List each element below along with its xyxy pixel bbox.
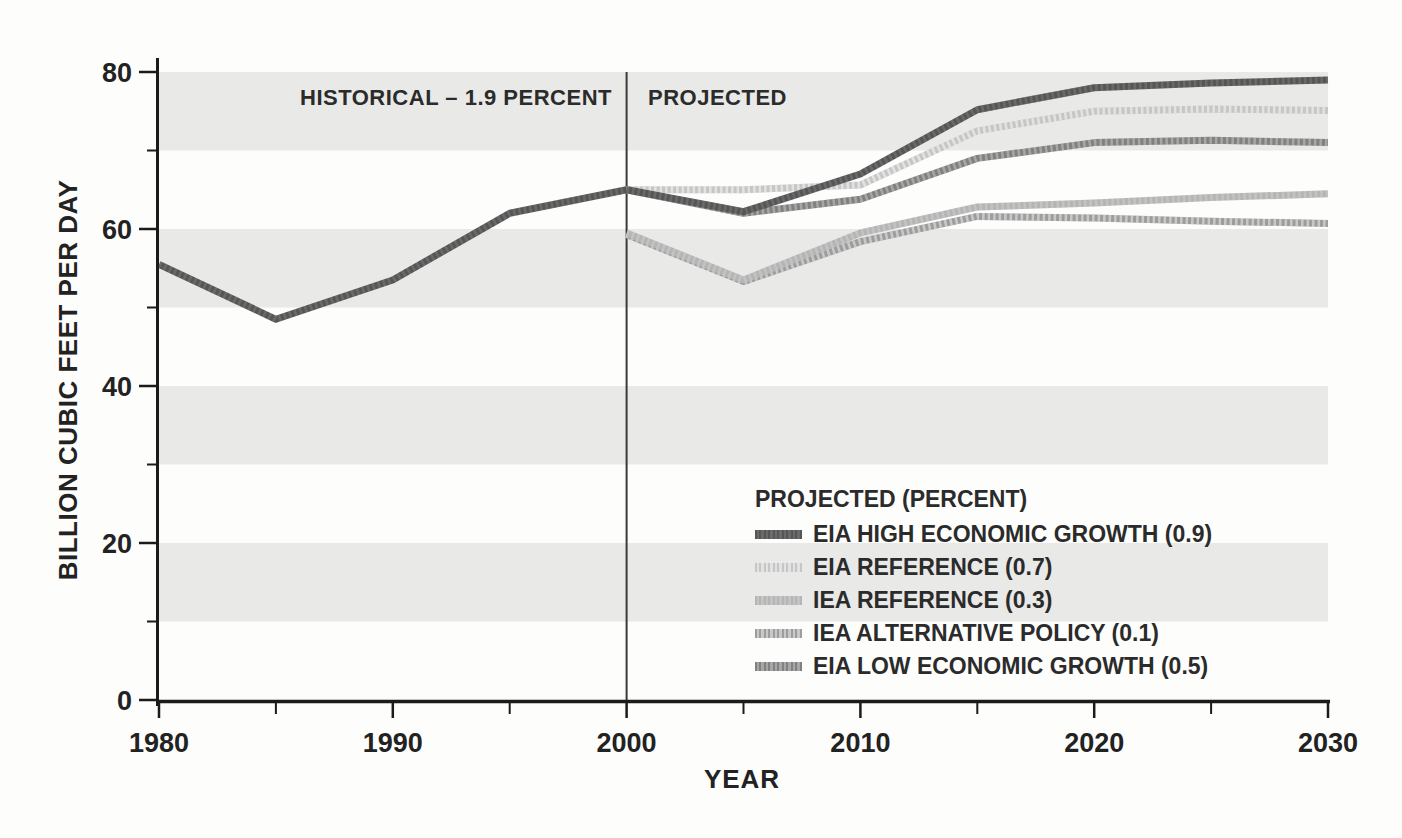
x-tick-label: 2010 bbox=[830, 728, 890, 758]
legend-label: EIA HIGH ECONOMIC GROWTH (0.9) bbox=[813, 521, 1212, 548]
y-tick-label: 60 bbox=[102, 215, 132, 245]
legend: PROJECTED (PERCENT) EIA HIGH ECONOMIC GR… bbox=[755, 486, 1212, 683]
line-swatch-icon bbox=[755, 563, 802, 572]
legend-item: EIA LOW ECONOMIC GROWTH (0.5) bbox=[755, 650, 1212, 683]
line-swatch-icon bbox=[755, 662, 802, 671]
grid-band bbox=[159, 386, 1328, 465]
x-tick-label: 1990 bbox=[363, 728, 423, 758]
y-tick-label: 20 bbox=[102, 529, 132, 559]
legend-label: EIA REFERENCE (0.7) bbox=[813, 554, 1052, 581]
x-tick-label: 2020 bbox=[1064, 728, 1124, 758]
eia_low-line-texture bbox=[627, 140, 1328, 213]
projected-annotation: PROJECTED bbox=[648, 85, 787, 111]
chart-figure: 020406080198019902000201020202030 HISTOR… bbox=[0, 0, 1402, 838]
y-tick-label: 80 bbox=[102, 58, 132, 88]
line-swatch-icon bbox=[755, 596, 802, 605]
historical-annotation: HISTORICAL – 1.9 PERCENT bbox=[300, 85, 612, 111]
legend-item: IEA REFERENCE (0.3) bbox=[755, 584, 1212, 617]
legend-label: EIA LOW ECONOMIC GROWTH (0.5) bbox=[813, 653, 1208, 680]
y-tick-label: 40 bbox=[102, 372, 132, 402]
legend-item: IEA ALTERNATIVE POLICY (0.1) bbox=[755, 617, 1212, 650]
legend-label: IEA ALTERNATIVE POLICY (0.1) bbox=[813, 620, 1159, 647]
grid-band bbox=[159, 229, 1328, 308]
y-axis-title: BILLION CUBIC FEET PER DAY bbox=[53, 180, 84, 581]
eia_low-line bbox=[627, 140, 1328, 213]
x-tick-label: 1980 bbox=[129, 728, 189, 758]
legend-item: EIA HIGH ECONOMIC GROWTH (0.9) bbox=[755, 518, 1212, 551]
y-tick-label: 0 bbox=[117, 686, 132, 716]
x-axis-title: YEAR bbox=[704, 764, 780, 795]
legend-label: IEA REFERENCE (0.3) bbox=[813, 587, 1052, 614]
x-tick-label: 2030 bbox=[1298, 728, 1358, 758]
legend-item: EIA REFERENCE (0.7) bbox=[755, 551, 1212, 584]
legend-title: PROJECTED (PERCENT) bbox=[755, 486, 1212, 512]
line-swatch-icon bbox=[755, 629, 802, 638]
line-swatch-icon bbox=[755, 530, 802, 539]
chart-canvas: 020406080198019902000201020202030 bbox=[0, 0, 1402, 838]
x-tick-label: 2000 bbox=[597, 728, 657, 758]
